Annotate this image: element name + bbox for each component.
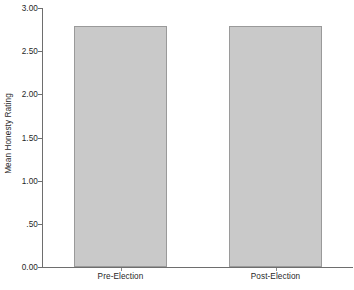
x-axis-tick-labels: Pre-ElectionPost-Election [43, 272, 353, 290]
y-axis-tick-label: .50 [26, 219, 38, 228]
y-axis-tick-label: 0.00 [22, 263, 38, 272]
bar-post-election [229, 26, 323, 267]
x-axis-tick-mark [276, 268, 277, 271]
x-axis-tick-label: Post-Election [251, 272, 301, 281]
y-axis-tick-label: 3.00 [22, 4, 38, 13]
x-axis-line [42, 267, 353, 268]
bar-pre-election [74, 26, 168, 267]
y-axis-tick-label: 2.50 [22, 47, 38, 56]
y-axis-tick-label: 1.50 [22, 133, 38, 142]
plot-area [43, 8, 353, 267]
y-axis-title-text: Mean Honesty Rating [4, 93, 13, 174]
y-axis-tick-label: 1.00 [22, 176, 38, 185]
x-axis-tick-mark [121, 268, 122, 271]
bar-chart: Mean Honesty Rating 0.00.501.001.502.002… [0, 0, 354, 290]
x-axis-tick-label: Pre-Election [98, 272, 144, 281]
y-axis-tick-label: 2.00 [22, 90, 38, 99]
y-axis-tick-labels: 0.00.501.001.502.002.503.00 [14, 0, 42, 290]
